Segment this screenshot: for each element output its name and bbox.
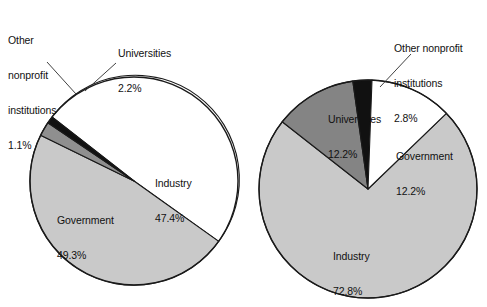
right-label-other-nonprofit-line2: institutions (394, 78, 463, 90)
left-label-industry-line2: 47.4% (155, 213, 192, 225)
right-label-industry: Industry 72.8% (333, 228, 370, 307)
right-label-universities-line2: 12.2% (328, 149, 381, 161)
right-label-industry-line1: Industry (333, 251, 370, 263)
left-label-universities: Universities 2.2% (118, 25, 171, 118)
right-label-industry-line2: 72.8% (333, 286, 370, 298)
left-label-universities-line1: Universities (118, 48, 171, 60)
left-label-industry-line1: Industry (155, 178, 192, 190)
left-label-other-nonprofit-line1: Other (8, 35, 56, 47)
left-label-other-nonprofit-line3: institutions (8, 105, 56, 117)
right-label-universities: Universities 12.2% (328, 91, 381, 184)
left-label-government-line2: 49.3% (57, 250, 114, 262)
right-label-other-nonprofit-line3: 2.8% (394, 113, 463, 125)
right-label-government-line2: 12.2% (396, 186, 453, 198)
left-label-industry: Industry 47.4% (155, 155, 192, 248)
two-pie-chart-figure: Other nonprofit institutions 1.1% Univer… (0, 0, 487, 307)
right-label-government-line1: Government (396, 151, 453, 163)
left-label-universities-line2: 2.2% (118, 83, 171, 95)
left-label-government: Government 49.3% (57, 192, 114, 285)
right-label-government: Government 12.2% (396, 128, 453, 221)
right-label-universities-line1: Universities (328, 114, 381, 126)
left-label-other-nonprofit: Other nonprofit institutions 1.1% (8, 12, 56, 174)
right-label-other-nonprofit-line1: Other nonprofit (394, 43, 463, 55)
left-label-government-line1: Government (57, 215, 114, 227)
left-label-other-nonprofit-line4: 1.1% (8, 140, 56, 152)
left-label-other-nonprofit-line2: nonprofit (8, 70, 56, 82)
